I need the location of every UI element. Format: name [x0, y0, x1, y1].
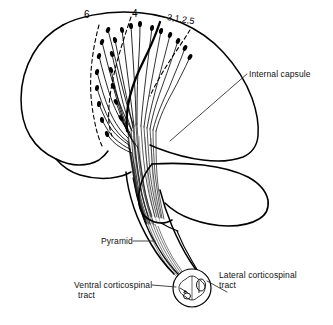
- ventral-corticospinal-tract-label: Ventral corticospinaltract: [74, 280, 152, 300]
- internal-capsule-label: Internal capsule: [249, 69, 311, 79]
- spinal-cord-cross-section: [173, 269, 211, 307]
- pyramid-label: Pyramid: [101, 236, 133, 246]
- ventral-tract-label-line2: tract: [74, 290, 95, 300]
- ventral-tract-label-line1: Ventral corticospinal: [74, 280, 152, 290]
- lateral-tract-label-line2: tract: [219, 280, 236, 290]
- cortical-area-label-4: 4: [132, 8, 138, 19]
- lateral-corticospinal-tract-label: Lateral corticospinaltract: [219, 270, 297, 290]
- cortical-area-label-6: 6: [84, 9, 90, 20]
- lateral-tract-label-line1: Lateral corticospinal: [219, 270, 297, 280]
